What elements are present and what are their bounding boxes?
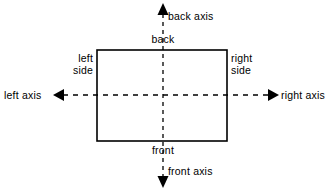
left-arrowhead-icon bbox=[53, 89, 64, 101]
label-right-axis: right axis bbox=[281, 89, 325, 101]
label-left-side: left side bbox=[60, 52, 93, 76]
label-back-axis: back axis bbox=[168, 10, 214, 22]
right-arrowhead-icon bbox=[268, 89, 279, 101]
label-front-axis: front axis bbox=[168, 165, 213, 177]
axis-orientation-diagram: back axis back left side right side left… bbox=[0, 0, 334, 191]
label-front: front bbox=[133, 144, 193, 156]
label-back: back bbox=[133, 33, 193, 45]
back-arrowhead-icon bbox=[158, 3, 169, 15]
front-arrowhead-icon bbox=[158, 176, 169, 188]
label-right-side: right side bbox=[231, 52, 271, 76]
label-left-axis: left axis bbox=[4, 89, 41, 101]
